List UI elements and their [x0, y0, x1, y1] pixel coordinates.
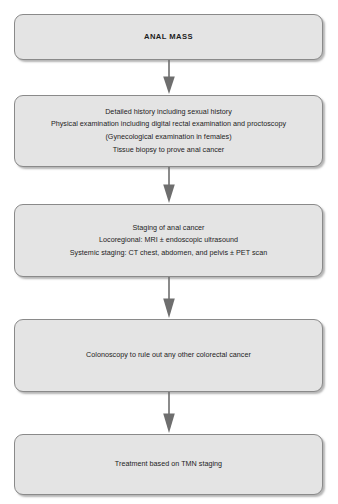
flow-arrow-down-2	[153, 167, 185, 204]
flow-arrow-down-1	[153, 60, 185, 95]
flow-node-label: ANAL MASS	[15, 31, 322, 44]
arrow-down-icon	[153, 60, 185, 95]
flowchart: ANAL MASS Detailed history including sex…	[0, 0, 338, 504]
flow-node-initial-evaluation: Detailed history including sexual histor…	[14, 95, 323, 167]
flow-node-label: Treatment based on TMN staging	[15, 458, 322, 471]
flow-node-staging: Staging of anal cancer Locoregional: MRI…	[14, 204, 323, 277]
arrow-down-icon	[153, 167, 185, 204]
arrow-down-icon	[153, 277, 185, 319]
flow-node-colonoscopy: Colonoscopy to rule out any other colore…	[14, 319, 323, 392]
flow-node-treatment: Treatment based on TMN staging	[14, 434, 323, 495]
arrow-down-icon	[153, 392, 185, 434]
flow-node-label: Staging of anal cancer Locoregional: MRI…	[15, 222, 322, 260]
flow-arrow-down-4	[153, 392, 185, 434]
flow-arrow-down-3	[153, 277, 185, 319]
flow-node-anal-mass: ANAL MASS	[14, 14, 323, 60]
flow-node-label: Colonoscopy to rule out any other colore…	[15, 349, 322, 362]
flow-node-label: Detailed history including sexual histor…	[15, 106, 322, 156]
